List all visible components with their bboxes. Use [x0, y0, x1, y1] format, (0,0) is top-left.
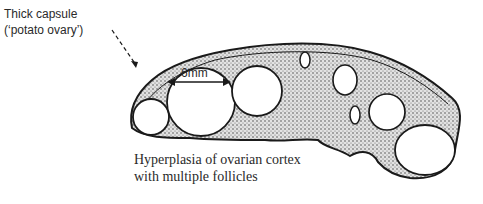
follicle-1: [133, 99, 169, 135]
measurement-label: 6mm: [181, 66, 208, 81]
follicle-3: [232, 66, 282, 116]
caption-line2: with multiple follicles: [134, 169, 258, 185]
capsule-label-line1: Thick capsule: [4, 7, 77, 22]
caption-line1: Hyperplasia of ovarian cortex: [134, 152, 301, 168]
ovary-diagram: Thick capsule (‘potato ovary’) 6mm Hyper…: [0, 0, 483, 204]
follicle-5: [369, 94, 405, 130]
follicle-4: [333, 65, 357, 95]
follicle-small-2: [350, 106, 360, 124]
follicle-6: [395, 125, 455, 175]
capsule-pointer: [112, 30, 136, 65]
capsule-label-line2: (‘potato ovary’): [4, 23, 83, 38]
follicle-small-1: [300, 52, 310, 68]
arrowhead-icon: [131, 61, 138, 68]
